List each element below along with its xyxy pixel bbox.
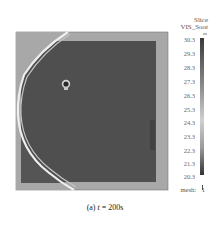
colorbar-tick: 24.3 — [178, 120, 195, 127]
colorbar-tick: 23.3 — [178, 134, 195, 141]
ring-feature — [63, 81, 70, 88]
colorbar-tick: 26.3 — [178, 93, 195, 100]
colorbar-tick: 30.3 — [178, 37, 195, 44]
caption-prefix: (a) — [87, 203, 98, 212]
colorbar — [200, 38, 204, 175]
quantity-label: VIS_Soot — [172, 24, 208, 31]
figure-caption: (a) t = 200s — [0, 203, 210, 212]
caption-suffix: = 200s — [100, 203, 124, 212]
ring-tail — [64, 87, 68, 90]
unit-label: m — [195, 31, 207, 36]
colorbar-tick: 20.3 — [178, 174, 195, 181]
colorbar-tick: 21.3 — [178, 161, 195, 168]
right-edge-shade — [150, 120, 155, 150]
colorbar-tick: 29.3 — [178, 51, 195, 58]
colorbar-tick: 25.3 — [178, 107, 195, 114]
colorbar-tick: 22.3 — [178, 148, 195, 155]
colorbar-tick: 28.3 — [178, 65, 195, 72]
mesh-label: mesh: — [176, 187, 196, 194]
colorbar-tick: 27.3 — [178, 79, 195, 86]
mesh-value: 1 — [199, 187, 205, 194]
